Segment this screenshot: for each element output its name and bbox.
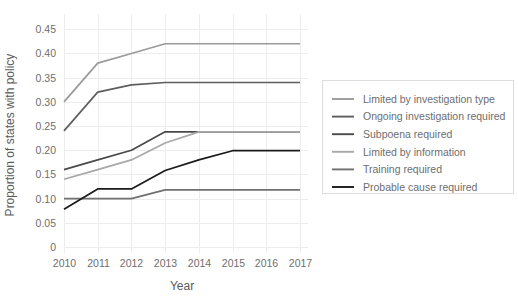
y-tick-label: 0.15 bbox=[36, 168, 57, 180]
legend-label: Probable cause required bbox=[363, 181, 478, 193]
legend-label: Limited by investigation type bbox=[363, 93, 495, 105]
series-line bbox=[64, 82, 300, 130]
x-tick-label: 2014 bbox=[188, 257, 212, 269]
series-line bbox=[64, 44, 300, 102]
legend-label: Limited by information bbox=[363, 146, 466, 158]
y-tick-label: 0.20 bbox=[36, 144, 57, 156]
line-chart: 00.050.100.150.200.250.300.350.400.45 20… bbox=[0, 0, 518, 297]
vertical-gridlines bbox=[65, 14, 301, 253]
legend-label: Training required bbox=[363, 163, 442, 175]
legend-label: Subpoena required bbox=[363, 128, 452, 140]
y-tick-label: 0.40 bbox=[36, 47, 57, 59]
y-tick-label: 0.30 bbox=[36, 96, 57, 108]
legend-label: Ongoing investigation required bbox=[363, 110, 506, 122]
chart-svg: 00.050.100.150.200.250.300.350.400.45 20… bbox=[0, 0, 518, 297]
x-tick-label: 2017 bbox=[289, 257, 313, 269]
x-axis-tick-labels: 20102011201220132014201520162017 bbox=[53, 257, 313, 269]
series-line bbox=[64, 132, 300, 179]
series-line bbox=[64, 190, 300, 199]
chart-legend: Limited by investigation typeOngoing inv… bbox=[323, 81, 514, 194]
x-tick-label: 2015 bbox=[222, 257, 246, 269]
y-tick-label: 0 bbox=[50, 241, 56, 253]
y-axis-title: Proportion of states with policy bbox=[3, 54, 17, 217]
x-axis-title: Year bbox=[170, 279, 194, 293]
y-tick-label: 0.25 bbox=[36, 120, 57, 132]
y-axis-tick-labels: 00.050.100.150.200.250.300.350.400.45 bbox=[36, 23, 57, 253]
x-tick-label: 2013 bbox=[154, 257, 178, 269]
x-tick-label: 2016 bbox=[255, 257, 279, 269]
x-tick-label: 2010 bbox=[53, 257, 77, 269]
y-tick-label: 0.10 bbox=[36, 193, 57, 205]
x-tick-label: 2012 bbox=[120, 257, 144, 269]
y-tick-label: 0.35 bbox=[36, 72, 57, 84]
y-tick-label: 0.45 bbox=[36, 23, 57, 35]
y-tick-label: 0.05 bbox=[36, 217, 57, 229]
x-tick-label: 2011 bbox=[87, 257, 110, 269]
